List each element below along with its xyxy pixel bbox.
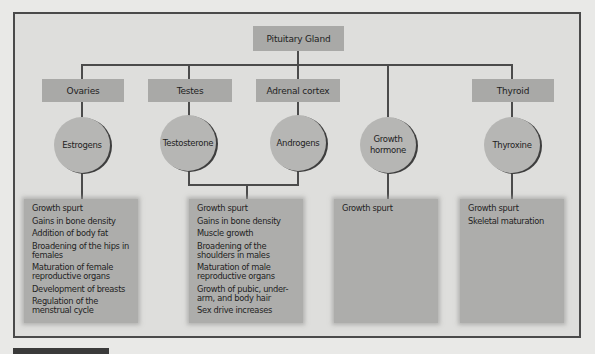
- pituitary-gland-box: Pituitary Gland: [253, 26, 344, 51]
- effect-item: Gains in bone density: [197, 217, 297, 226]
- connector-ovaries: [81, 64, 83, 79]
- thyroid-box: Thyroid: [472, 79, 554, 102]
- figure-caption-bar: [13, 348, 109, 354]
- connector-growth-hormone-effects: [387, 173, 389, 199]
- growth-hormone-effects-box: Growth spurt: [334, 199, 438, 323]
- effect-item: Growth spurt: [197, 204, 297, 213]
- effect-item: Development of breasts: [32, 285, 132, 294]
- connector-adrenal: [297, 64, 299, 79]
- thyroxine-circle: Thyroxine: [484, 117, 540, 173]
- male-hormones-effects-list: Growth spurt Gains in bone density Muscl…: [197, 204, 297, 315]
- thyroxine-effects-box: Growth spurt Skeletal maturation: [460, 199, 564, 323]
- connector-male-join-horizontal: [188, 184, 299, 186]
- estrogens-circle: Estrogens: [54, 117, 110, 173]
- androgens-circle: Androgens: [270, 115, 326, 171]
- connector-androgens-join: [297, 170, 299, 185]
- connector-thyroid: [511, 64, 513, 79]
- effect-item: Growth of pubic, under-arm, and body hai…: [197, 285, 297, 303]
- estrogens-effects-list: Growth spurt Gains in bone density Addit…: [32, 204, 132, 315]
- connector-thyroxine-effects: [511, 173, 513, 199]
- testes-box: Testes: [148, 79, 232, 102]
- effect-item: Gains in bone density: [32, 217, 132, 226]
- connector-join-effects: [246, 184, 248, 199]
- connector-testes: [188, 64, 190, 79]
- adrenal-cortex-box: Adrenal cortex: [256, 79, 340, 102]
- connector-ovaries-estrogens: [81, 102, 83, 117]
- estrogens-effects-box: Growth spurt Gains in bone density Addit…: [24, 199, 138, 323]
- effect-item: Muscle growth: [197, 229, 297, 238]
- connector-thyroid-thyroxine: [511, 102, 513, 117]
- effect-item: Addition of body fat: [32, 229, 132, 238]
- growth-hormone-circle: Growth hormone: [360, 117, 416, 173]
- effect-item: Regulation of the menstrual cycle: [32, 297, 132, 315]
- ovaries-box: Ovaries: [42, 79, 124, 102]
- testosterone-circle: Testosterone: [160, 115, 216, 171]
- effect-item: Growth spurt: [32, 204, 132, 213]
- effect-item: Growth spurt: [468, 204, 558, 213]
- thyroxine-effects-list: Growth spurt Skeletal maturation: [468, 204, 558, 226]
- effect-item: Growth spurt: [342, 204, 432, 213]
- effect-item: Broadening of the hips in females: [32, 242, 132, 260]
- effect-item: Broadening of the shoulders in males: [197, 242, 297, 260]
- effect-item: Skeletal maturation: [468, 217, 558, 226]
- connector-estrogens-effects: [81, 173, 83, 199]
- connector-root-down: [297, 51, 299, 65]
- effect-item: Sex drive increases: [197, 306, 297, 315]
- effect-item: Maturation of male reproductive organs: [197, 263, 297, 281]
- connector-testosterone-join: [188, 170, 190, 185]
- male-hormones-effects-box: Growth spurt Gains in bone density Muscl…: [189, 199, 303, 323]
- growth-hormone-effects-list: Growth spurt: [342, 204, 432, 213]
- connector-growth-hormone: [387, 64, 389, 117]
- effect-item: Maturation of female reproductive organs: [32, 263, 132, 281]
